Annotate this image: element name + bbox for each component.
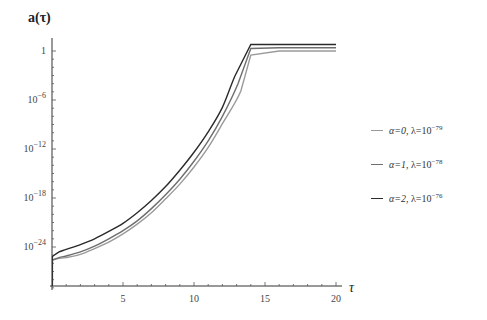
curves xyxy=(52,44,336,286)
legend-item-alpha0: α=0, λ=10−79 xyxy=(371,124,442,136)
y-tick-label: 10−6 xyxy=(27,91,46,105)
x-tick-label: 20 xyxy=(331,293,341,304)
series-line-alpha2 xyxy=(52,44,336,256)
legend-swatch xyxy=(371,130,383,131)
legend-label: α=0, λ=10−79 xyxy=(389,124,442,136)
y-tick-label: 10−24 xyxy=(23,238,46,252)
axes: 5101520110−610−1210−1810−24 xyxy=(23,38,342,304)
legend-item-alpha1: α=1, λ=10−78 xyxy=(371,158,442,170)
x-tick-label: 5 xyxy=(121,293,126,304)
x-tick-label: 15 xyxy=(260,293,270,304)
x-tick-label: 10 xyxy=(189,293,199,304)
legend-label: α=1, λ=10−78 xyxy=(389,158,442,170)
y-tick-label: 1 xyxy=(41,45,46,56)
y-tick-label: 10−12 xyxy=(23,140,46,154)
y-axis-title: a(τ) xyxy=(28,10,51,26)
legend-swatch xyxy=(371,198,383,199)
legend-swatch xyxy=(371,164,383,165)
series-line-alpha0 xyxy=(52,51,336,260)
y-tick-label: 10−18 xyxy=(23,189,46,203)
legend-label: α=2, λ=10−76 xyxy=(389,192,442,204)
series-line-alpha1 xyxy=(52,48,336,260)
x-axis-title: τ xyxy=(349,280,355,295)
legend-item-alpha2: α=2, λ=10−76 xyxy=(371,192,442,204)
